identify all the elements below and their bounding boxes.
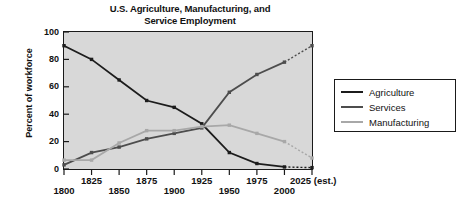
data-point-marker [310, 156, 313, 159]
data-point-marker [117, 141, 120, 144]
data-point-marker [255, 132, 258, 135]
data-point-marker [255, 73, 258, 76]
data-point-marker [145, 129, 148, 132]
series-line-services [284, 46, 312, 62]
series-line-services [64, 62, 284, 165]
chart-title-line-1: U.S. Agriculture, Manufacturing, and [110, 3, 271, 14]
series-line-manufacturing [284, 142, 312, 158]
legend-swatch-services [341, 106, 363, 109]
axis-ticks [63, 32, 312, 175]
y-tick-label: 0 [31, 165, 59, 174]
legend-item-manufacturing: Manufacturing [341, 116, 429, 128]
x-tick-label: 1850 [109, 186, 130, 196]
chart-title: U.S. Agriculture, Manufacturing, and Ser… [60, 3, 320, 27]
data-point-marker [173, 129, 176, 132]
data-point-marker [62, 163, 65, 166]
legend-label-agriculture: Agriculture [369, 87, 414, 98]
data-point-marker [117, 78, 120, 81]
x-tick-label: 1975 [246, 176, 267, 186]
legend-swatch-manufacturing [341, 121, 363, 124]
data-point-marker [145, 137, 148, 140]
data-point-marker [90, 158, 93, 161]
y-tick-label: 60 [31, 82, 59, 91]
data-point-marker [283, 165, 286, 168]
legend-label-manufacturing: Manufacturing [369, 117, 429, 128]
plot-svg [63, 31, 313, 170]
x-tick-label: 1950 [219, 186, 240, 196]
x-tick-label: 1875 [136, 176, 157, 186]
data-point-marker [228, 151, 231, 154]
employment-line-chart: U.S. Agriculture, Manufacturing, and Ser… [0, 0, 471, 208]
legend-label-services: Services [369, 102, 405, 113]
x-tick-label: 1825 [81, 176, 102, 186]
legend-item-agriculture: Agriculture [341, 86, 414, 98]
chart-title-line-2: Service Employment [144, 15, 236, 26]
data-point-marker [228, 91, 231, 94]
data-point-marker [62, 44, 65, 47]
legend-swatch-agriculture [341, 91, 363, 94]
x-tick-label: 1900 [164, 186, 185, 196]
y-tick-label: 80 [31, 55, 59, 64]
data-point-marker [117, 145, 120, 148]
series-layer [62, 44, 313, 169]
data-point-marker [310, 166, 313, 169]
x-tick-label: 2025 (est.) [290, 176, 336, 186]
series-line-agriculture [284, 167, 312, 168]
data-point-marker [90, 58, 93, 61]
data-point-marker [90, 151, 93, 154]
data-point-marker [255, 162, 258, 165]
data-point-marker [310, 44, 313, 47]
y-tick-label: 20 [31, 137, 59, 146]
y-tick-label: 40 [31, 110, 59, 119]
x-tick-label: 1800 [53, 186, 74, 196]
data-point-marker [62, 158, 65, 161]
data-point-marker [145, 99, 148, 102]
data-point-marker [173, 106, 176, 109]
data-point-marker [200, 125, 203, 128]
x-tick-label: 1925 [191, 176, 212, 186]
data-point-marker [228, 123, 231, 126]
data-point-marker [283, 140, 286, 143]
x-tick-label: 2000 [274, 186, 295, 196]
data-point-marker [283, 60, 286, 63]
legend: Agriculture Services Manufacturing [334, 79, 456, 132]
legend-item-services: Services [341, 101, 405, 113]
y-tick-label: 100 [31, 28, 59, 37]
